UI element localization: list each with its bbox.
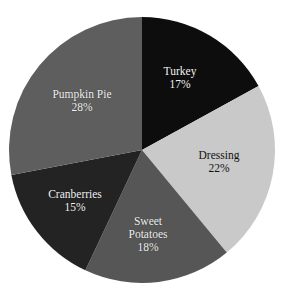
pie-chart-figure: Turkey17%Dressing22%SweetPotatoes18%Cran… [0,0,286,294]
pie-slice-pumpkin-pie[interactable] [9,17,142,175]
pie-slices-group [9,17,275,283]
pie-chart-svg [0,0,286,294]
